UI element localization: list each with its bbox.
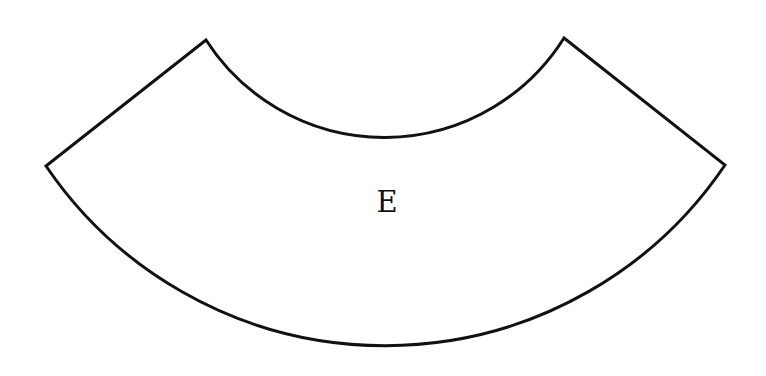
- sector-label: E: [372, 184, 402, 220]
